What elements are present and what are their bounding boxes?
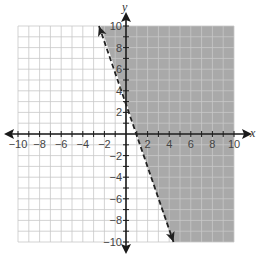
- y-tick-label: −10: [103, 236, 122, 248]
- x-tick-label: 4: [166, 138, 172, 150]
- y-tick-label: 8: [116, 42, 122, 54]
- x-tick-label: −4: [77, 138, 90, 150]
- y-axis-label: y: [121, 0, 128, 14]
- y-tick-label: 10: [110, 20, 122, 32]
- x-tick-label: 8: [209, 138, 215, 150]
- coordinate-plane: −10−8−6−4−2246810108642−2−4−6−8−10 x y: [0, 0, 259, 256]
- y-tick-label: −2: [109, 150, 122, 162]
- y-tick-label: −6: [109, 193, 122, 205]
- y-tick-label: 2: [116, 106, 122, 118]
- x-tick-label: −10: [9, 138, 28, 150]
- x-tick-label: −8: [33, 138, 46, 150]
- x-axis-label: x: [249, 126, 256, 140]
- y-tick-label: 4: [116, 85, 122, 97]
- y-tick-label: −4: [109, 171, 122, 183]
- x-tick-label: 2: [145, 138, 151, 150]
- y-tick-label: 6: [116, 63, 122, 75]
- x-tick-label: −2: [98, 138, 111, 150]
- y-tick-label: −8: [109, 214, 122, 226]
- x-tick-label: 6: [188, 138, 194, 150]
- x-tick-label: 10: [228, 138, 240, 150]
- x-tick-label: −6: [55, 138, 68, 150]
